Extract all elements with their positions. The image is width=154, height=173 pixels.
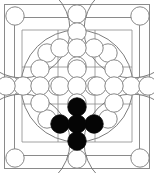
corner-top-left-stone[interactable] — [6, 7, 24, 25]
north-left-stone[interactable] — [51, 39, 69, 57]
north-right-stone[interactable] — [85, 39, 103, 57]
south-up-stone[interactable] — [68, 98, 86, 116]
east-up-stone[interactable] — [105, 60, 123, 78]
south-right-stone[interactable] — [85, 115, 103, 133]
west-center-stone[interactable] — [31, 77, 49, 95]
west-up-stone[interactable] — [31, 60, 49, 78]
west-down-stone[interactable] — [31, 94, 49, 112]
east-left-stone[interactable] — [88, 77, 106, 95]
east-down-stone[interactable] — [105, 94, 123, 112]
center-left-stone[interactable] — [51, 77, 69, 95]
east-center-stone[interactable] — [105, 77, 123, 95]
edge-bottom-center-stone[interactable] — [68, 150, 86, 168]
edge-top-center-stone[interactable] — [68, 5, 86, 23]
north-center-stone[interactable] — [68, 39, 86, 57]
board-canvas[interactable] — [0, 0, 154, 173]
south-center-stone[interactable] — [68, 115, 86, 133]
corner-bottom-right-stone[interactable] — [131, 149, 149, 167]
south-left-stone[interactable] — [51, 115, 69, 133]
center-center-stone[interactable] — [68, 77, 86, 95]
south-down-stone[interactable] — [68, 132, 86, 150]
west-left-stone[interactable] — [14, 77, 32, 95]
row-right-outer-stone[interactable] — [139, 77, 154, 95]
row-left-outer-stone[interactable] — [0, 77, 15, 95]
center-up-stone[interactable] — [68, 60, 86, 78]
east-right-stone[interactable] — [122, 77, 140, 95]
board-diagram — [0, 0, 154, 173]
corner-top-right-stone[interactable] — [131, 7, 149, 25]
corner-bottom-left-stone[interactable] — [6, 149, 24, 167]
